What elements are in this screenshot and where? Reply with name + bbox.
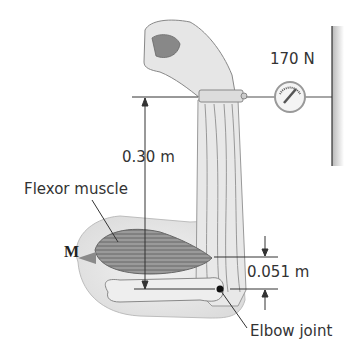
lever-arm-muscle-label: 0.051 m: [247, 263, 309, 281]
lever-arm-hand-label: 0.30 m: [122, 148, 175, 166]
fist: [144, 20, 236, 98]
force-label: 170 N: [270, 50, 315, 68]
elbow-joint-marker: [217, 286, 224, 293]
elbow-joint-label: Elbow joint: [250, 322, 332, 340]
wrist-cuff: [199, 90, 243, 102]
forearm: [196, 100, 246, 306]
muscle-label: Flexor muscle: [24, 180, 128, 198]
wall: [332, 26, 344, 166]
muscle-force-label: M: [64, 243, 79, 261]
humerus-bone: [105, 278, 223, 302]
force-gauge-icon: [275, 82, 305, 112]
